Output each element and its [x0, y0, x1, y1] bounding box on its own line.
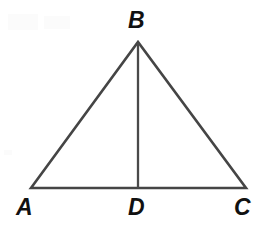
vertex-label-b: B — [128, 9, 145, 32]
vertex-label-c: C — [234, 196, 251, 219]
geometry-figure: B A D C — [0, 0, 271, 232]
vertex-label-d: D — [128, 196, 145, 219]
vertex-label-a: A — [16, 196, 33, 219]
